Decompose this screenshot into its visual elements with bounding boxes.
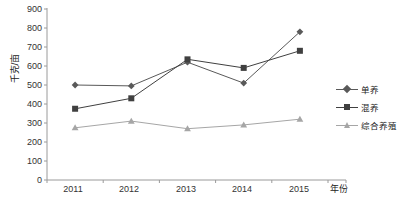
legend-item-label: 单养 bbox=[361, 83, 379, 95]
legend-item-label: 综合养殖 bbox=[361, 119, 397, 131]
legend: 单养 混养 综合养殖 bbox=[336, 80, 397, 134]
legend-item[interactable]: 混养 bbox=[336, 98, 397, 116]
legend-marker-diamond-icon bbox=[336, 84, 358, 94]
legend-marker-square-icon bbox=[336, 102, 358, 112]
legend-item[interactable]: 综合养殖 bbox=[336, 116, 397, 134]
line-chart: 千克/亩 年份 0 100 200 300 400 500 600 700 80… bbox=[0, 0, 404, 210]
legend-item-label: 混养 bbox=[361, 101, 379, 113]
legend-marker-triangle-icon bbox=[336, 120, 358, 130]
legend-item[interactable]: 单养 bbox=[336, 80, 397, 98]
